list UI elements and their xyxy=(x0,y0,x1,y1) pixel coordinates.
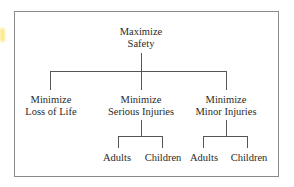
highlight-mark xyxy=(0,28,5,42)
node-maximize-safety: Maximize Safety xyxy=(120,26,163,50)
node-minor-children: Children xyxy=(231,152,268,164)
node-label-line1: Minimize xyxy=(196,94,257,106)
connector-serious-vertical xyxy=(141,120,142,137)
node-label-line2: Minor Injuries xyxy=(196,106,257,118)
node-minor-adults: Adults xyxy=(190,152,218,164)
connector-minor-adults xyxy=(203,136,204,148)
node-minimize-minor-injuries: Minimize Minor Injuries xyxy=(196,94,257,118)
node-label-line2: Serious Injuries xyxy=(108,106,174,118)
node-label-line1: Minimize xyxy=(108,94,174,106)
connector-minor-children xyxy=(247,136,248,148)
connector-to-serious-injuries xyxy=(141,71,142,90)
node-label-line2: Safety xyxy=(120,38,163,50)
node-minimize-serious-injuries: Minimize Serious Injuries xyxy=(108,94,174,118)
node-serious-adults: Adults xyxy=(103,152,131,164)
connector-to-loss-of-life xyxy=(50,71,51,90)
connector-serious-children xyxy=(162,136,163,148)
connector-serious-horizontal xyxy=(118,136,163,137)
node-label-line1: Maximize xyxy=(120,26,163,38)
connector-minor-horizontal xyxy=(203,136,248,137)
connector-minor-vertical xyxy=(226,120,227,137)
connector-root-vertical xyxy=(141,53,142,72)
node-minimize-loss-of-life: Minimize Loss of Life xyxy=(25,94,76,118)
connector-root-horizontal xyxy=(50,71,227,72)
node-serious-children: Children xyxy=(145,152,182,164)
node-label-line2: Loss of Life xyxy=(25,106,76,118)
node-label-line1: Minimize xyxy=(25,94,76,106)
connector-to-minor-injuries xyxy=(226,71,227,90)
connector-serious-adults xyxy=(118,136,119,148)
